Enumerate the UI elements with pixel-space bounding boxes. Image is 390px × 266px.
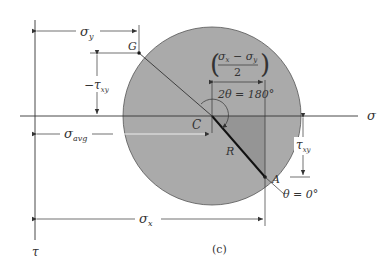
tau-axis-label: τ	[32, 245, 39, 259]
svg-text:): )	[260, 49, 270, 79]
sigma-axis-label: σ	[367, 108, 377, 123]
svg-text:2: 2	[234, 66, 241, 79]
point-a-label: A	[271, 173, 280, 186]
figure-caption: (c)	[212, 243, 227, 256]
radius-r-label: R	[225, 145, 234, 158]
svg-text:σx − σy: σx − σy	[218, 50, 258, 64]
point-g-label: G	[128, 40, 137, 53]
center-c-label: C	[192, 118, 201, 132]
mohr-circle-diagram: σ τ σy G −τxy σavg C R A θ = 0° σx τxy	[0, 0, 390, 266]
two-theta-label: 2θ = 180°	[217, 88, 274, 101]
theta-zero-label: θ = 0°	[283, 188, 318, 201]
